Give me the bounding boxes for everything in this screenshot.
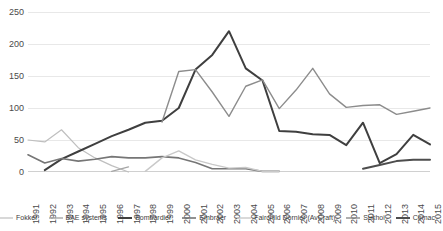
y-axis-tick-label: 250 [9, 8, 24, 17]
x-axis-labels: 1991199219931994199519961997199819992000… [28, 174, 430, 206]
y-axis-tick-label: 50 [14, 136, 24, 145]
legend-label: Embraer [199, 214, 226, 222]
legend-item[interactable]: Bombardier [118, 214, 171, 222]
legend-item[interactable]: Comac [396, 214, 435, 222]
legend-swatch-icon [118, 215, 132, 221]
legend-swatch-icon [396, 215, 410, 221]
legend-item[interactable]: Fairchild Dornier (AvCraft) [237, 214, 335, 222]
series-line [162, 68, 430, 122]
legend-swatch-icon [346, 215, 360, 221]
x-axis-tick-label: 2015 [434, 204, 443, 224]
series-line [363, 160, 430, 169]
y-axis-tick-label: 0 [19, 168, 24, 177]
legend-item[interactable]: Embraer [182, 214, 226, 222]
y-axis-labels: 050100150200250 [0, 0, 24, 172]
legend-label: BAE systems [66, 214, 108, 222]
legend-label: Fairchild Dornier (AvCraft) [254, 214, 335, 222]
legend-label: Sukhoi [363, 214, 384, 222]
legend-item[interactable]: Sukhoi [346, 214, 384, 222]
legend-label: Bombardier [135, 214, 171, 222]
legend-item[interactable]: Fokker [0, 214, 38, 222]
legend-swatch-icon [0, 215, 13, 221]
legend-swatch-icon [237, 215, 251, 221]
series-layer [28, 12, 430, 172]
legend-swatch-icon [182, 215, 196, 221]
legend-label: Fokker [16, 214, 37, 222]
plot-area [28, 12, 430, 172]
legend-item[interactable]: BAE systems [49, 214, 108, 222]
chart-legend: FokkerBAE systemsBombardierEmbraerFairch… [0, 210, 434, 226]
y-axis-tick-label: 100 [9, 104, 24, 113]
y-axis-tick-label: 200 [9, 40, 24, 49]
y-axis-tick-label: 150 [9, 72, 24, 81]
legend-swatch-icon [49, 215, 63, 221]
legend-label: Comac [413, 214, 435, 222]
